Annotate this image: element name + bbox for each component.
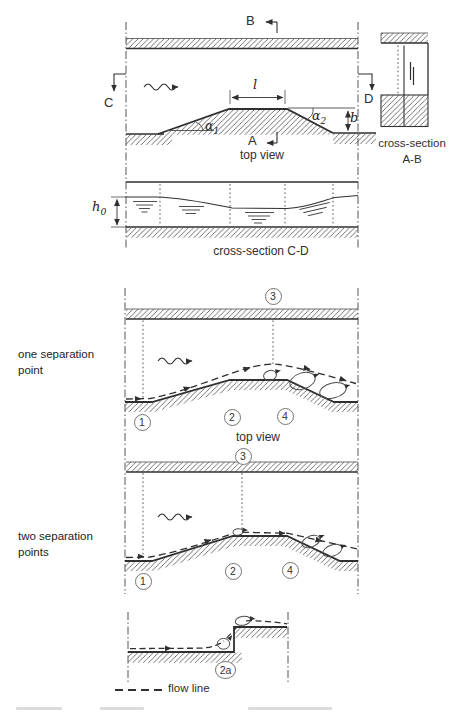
top-view-diagram xyxy=(114,22,376,248)
length-dimension xyxy=(230,90,285,104)
angle1-label: α1 xyxy=(205,118,219,133)
cross-section-cd-caption: cross-section C-D xyxy=(181,244,341,258)
one-separation-top-view-caption: top view xyxy=(228,430,288,444)
cropped-caption-fragment xyxy=(16,707,62,710)
flow-direction-arrow xyxy=(158,514,192,520)
flow-direction-arrow xyxy=(144,84,178,90)
flow-direction-arrow xyxy=(158,358,192,364)
point-badge-4-one-separation: 4 xyxy=(277,408,294,425)
section-letter-d: D xyxy=(364,91,373,106)
water-level-mark xyxy=(411,62,414,85)
one-separation-label-line2: point xyxy=(18,364,43,376)
angle2-label: α2 xyxy=(312,108,326,123)
figure-canvas: B C D A l b α1 α2 top view cross-section… xyxy=(0,0,453,715)
width-dimension-label: b xyxy=(350,110,358,125)
top-view-caption: top view xyxy=(226,148,298,162)
section-arrow-d xyxy=(358,74,372,90)
cross-section-cd-diagram xyxy=(111,182,358,238)
point-badge-1-two-separation: 1 xyxy=(135,573,152,590)
point-badge-2-two-separation: 2 xyxy=(225,563,242,580)
water-surface-line xyxy=(126,196,358,209)
point-badge-2a-step-detail: 2a xyxy=(215,661,236,679)
legend-flow-line-label: flow line xyxy=(168,682,210,694)
one-separation-label-line1: one separation xyxy=(18,348,94,360)
point-badge-3-two-separation: 3 xyxy=(235,448,252,465)
point-badge-3-one-separation: 3 xyxy=(265,288,282,305)
upper-wall xyxy=(126,309,358,319)
two-separation-label-line1: two separation xyxy=(18,530,93,542)
section-arrow-c xyxy=(114,74,126,91)
cross-section-ab-caption-line2: A-B xyxy=(372,153,452,165)
groyne-block xyxy=(381,95,428,127)
cross-section-ab-caption-line1: cross-section xyxy=(372,137,452,149)
section-arrow-b xyxy=(266,22,277,33)
section-letter-c: C xyxy=(104,95,113,110)
cropped-caption-fragment xyxy=(248,707,332,710)
two-separation-diagram xyxy=(125,448,358,594)
cropped-caption-fragment xyxy=(100,707,144,710)
water-surface-symbols xyxy=(133,202,331,224)
step-detail-diagram xyxy=(128,612,288,682)
cross-section-ab-diagram xyxy=(381,33,428,127)
depth-dimension xyxy=(111,197,126,227)
point-badge-4-two-separation: 4 xyxy=(282,562,299,579)
depth-label: h0 xyxy=(92,199,106,214)
one-separation-diagram xyxy=(125,288,358,446)
point-badge-1-one-separation: 1 xyxy=(134,414,151,431)
point-badge-2-one-separation: 2 xyxy=(224,409,241,426)
section-letter-a: A xyxy=(248,133,257,148)
upper-wall xyxy=(126,39,358,49)
two-separation-label-line2: points xyxy=(18,546,49,558)
length-dimension-label: l xyxy=(253,77,257,92)
section-letter-b: B xyxy=(246,13,255,28)
